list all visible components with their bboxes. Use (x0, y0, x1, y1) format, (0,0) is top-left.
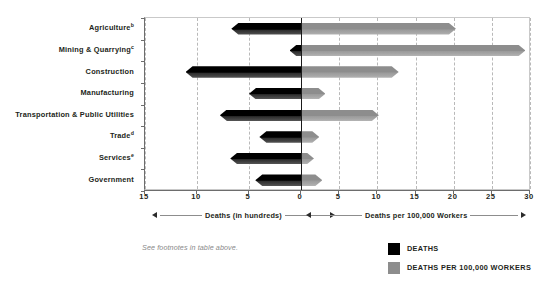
category-label: Traded (0, 131, 134, 140)
category-footnote-mark: d (131, 130, 134, 136)
legend-swatch (388, 262, 400, 274)
category-label-text: Services (99, 153, 131, 162)
bar-deaths (255, 174, 301, 186)
bar-deaths-per-100k (301, 110, 379, 122)
arrow-left-icon (306, 212, 311, 218)
right-axis-tick-label: 25 (486, 192, 496, 201)
bar-deaths (231, 23, 301, 35)
left-axis-tick-label: 5 (246, 192, 251, 201)
bidirectional-bar-chart: AgriculturebMining & QuarryingcConstruct… (0, 0, 559, 289)
caption-rule (314, 215, 362, 216)
bar-deaths (186, 66, 301, 78)
right-axis-tick-label: 30 (524, 192, 534, 201)
axis-caption-band: Deaths (in hundreds) Deaths per 100,000 … (0, 207, 559, 223)
bar-deaths-per-100k (301, 66, 399, 78)
plot-area (144, 17, 530, 190)
category-label: Government (0, 175, 134, 184)
category-label-text: Trade (110, 131, 131, 140)
bar-deaths (259, 131, 301, 143)
left-axis-caption-label: Deaths (in hundreds) (205, 211, 282, 220)
category-label-text: Agriculture (89, 23, 131, 32)
category-label-text: Manufacturing (80, 88, 134, 97)
category-label: Construction (0, 67, 134, 76)
category-label-text: Transportation & Public Utilities (15, 110, 134, 119)
caption-rule (470, 215, 518, 216)
bar-deaths-per-100k (301, 45, 525, 57)
right-axis-caption: Deaths per 100,000 Workers (306, 207, 526, 223)
bar-row (145, 105, 529, 127)
left-axis-tick-label: 15 (139, 192, 149, 201)
arrow-left-icon (152, 212, 157, 218)
category-label-text: Government (88, 175, 134, 184)
chart-legend: DEATHSDEATHS PER 100,000 WORKERS (388, 239, 559, 277)
left-axis-tick-label: 10 (191, 192, 201, 201)
category-footnote-mark: e (131, 152, 134, 158)
caption-rule (160, 215, 202, 216)
bar-row (145, 18, 529, 40)
bar-deaths-per-100k (301, 23, 456, 35)
bar-row (145, 126, 529, 148)
legend-label: DEATHS (407, 244, 439, 253)
bar-row (145, 169, 529, 191)
right-axis-tick-label: 10 (372, 192, 382, 201)
category-axis-labels: AgriculturebMining & QuarryingcConstruct… (0, 17, 139, 190)
value-axis-baseline (144, 190, 530, 191)
bar-deaths (230, 153, 301, 165)
category-label: Agricultureb (0, 23, 134, 32)
bar-row (145, 61, 529, 83)
zero-axis-line (301, 18, 302, 190)
category-label: Manufacturing (0, 88, 134, 97)
right-axis-caption-label: Deaths per 100,000 Workers (365, 211, 467, 220)
legend-label: DEATHS PER 100,000 WORKERS (407, 263, 531, 272)
category-label-text: Construction (86, 67, 134, 76)
legend-swatch (388, 243, 400, 255)
value-axis-numbers: 15105051015202530 (0, 192, 559, 204)
category-label: Servicese (0, 153, 134, 162)
right-axis-tick-label: 15 (410, 192, 420, 201)
bar-row (145, 40, 529, 62)
legend-item: DEATHS (388, 239, 559, 258)
arrow-right-icon (521, 212, 526, 218)
category-label: Transportation & Public Utilities (0, 110, 134, 119)
bar-deaths (249, 88, 301, 100)
bar-deaths-per-100k (301, 153, 314, 165)
category-footnote-mark: b (131, 22, 134, 28)
bar-deaths-per-100k (301, 174, 322, 186)
category-label-text: Mining & Quarrying (59, 45, 131, 54)
bar-deaths-per-100k (301, 131, 319, 143)
bar-deaths-per-100k (301, 88, 325, 100)
bar-deaths (290, 45, 301, 57)
bar-row (145, 83, 529, 105)
bar-deaths (220, 110, 301, 122)
bar-row (145, 148, 529, 170)
right-axis-tick-label: 0 (298, 192, 303, 201)
footnote-text: See footnotes in table above. (142, 243, 238, 252)
gridline (530, 18, 531, 189)
right-axis-tick-label: 5 (336, 192, 341, 201)
right-axis-tick-label: 20 (448, 192, 458, 201)
category-label: Mining & Quarryingc (0, 45, 134, 54)
legend-item: DEATHS PER 100,000 WORKERS (388, 258, 559, 277)
category-footnote-mark: c (131, 43, 134, 49)
